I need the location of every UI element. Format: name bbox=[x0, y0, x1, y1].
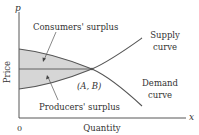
supply-demand-diagram: p x 0 Quantity Price Consumers' surplus … bbox=[0, 0, 199, 135]
supply-curve-label-line2: curve bbox=[153, 42, 177, 52]
producers-surplus-label: Producers' surplus bbox=[39, 102, 120, 112]
demand-curve-label-line2: curve bbox=[148, 90, 172, 100]
origin-label: 0 bbox=[17, 124, 22, 133]
y-axis-title: Price bbox=[2, 61, 12, 83]
equilibrium-point bbox=[91, 68, 94, 71]
consumers-surplus-region bbox=[19, 49, 92, 69]
y-axis-label: p bbox=[15, 3, 21, 13]
x-axis-label: x bbox=[189, 112, 194, 122]
supply-curve-label-line1: Supply bbox=[150, 30, 180, 40]
equilibrium-label: (A, B) bbox=[77, 81, 101, 91]
x-axis-title: Quantity bbox=[83, 123, 121, 133]
consumers-surplus-label: Consumers' surplus bbox=[33, 22, 118, 32]
demand-curve-label-line1: Demand bbox=[142, 78, 178, 88]
